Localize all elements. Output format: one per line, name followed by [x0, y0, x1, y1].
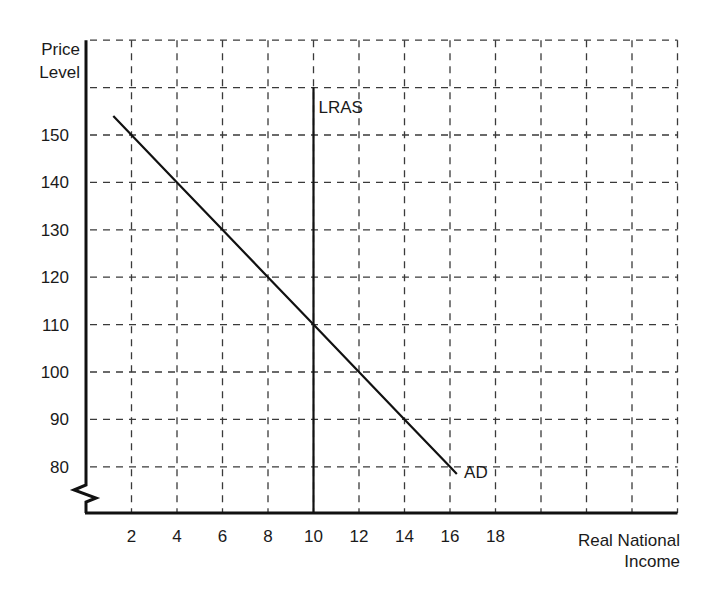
- x-tick-label: 8: [263, 527, 272, 546]
- dashed-grid: [90, 40, 678, 513]
- y-tick-label: 80: [50, 458, 69, 477]
- x-tick-label: 4: [172, 527, 181, 546]
- tick-labels: 809010011012013014015024681012141618: [41, 126, 505, 546]
- y-tick-label: 90: [50, 410, 69, 429]
- x-tick-label: 2: [127, 527, 136, 546]
- x-axis-title-line2: Income: [624, 552, 680, 571]
- y-axis-title-line2: Level: [39, 63, 80, 82]
- x-tick-label: 14: [395, 527, 414, 546]
- y-axis-title-line1: Price: [41, 40, 80, 59]
- series-lines: [113, 88, 457, 513]
- x-tick-label: 10: [304, 527, 323, 546]
- y-tick-label: 130: [41, 221, 69, 240]
- x-axis-title-line1: Real National: [578, 531, 680, 550]
- annotations: LRASAD: [319, 98, 488, 482]
- y-tick-label: 140: [41, 173, 69, 192]
- ad-line: [113, 116, 457, 474]
- x-tick-label: 16: [441, 527, 460, 546]
- y-tick-label: 100: [41, 363, 69, 382]
- x-tick-label: 6: [218, 527, 227, 546]
- price-level-chart: 809010011012013014015024681012141618 LRA…: [0, 0, 707, 589]
- x-tick-label: 12: [350, 527, 369, 546]
- x-tick-label: 18: [486, 527, 505, 546]
- ad-label: AD: [464, 463, 488, 482]
- lras-label: LRAS: [319, 98, 363, 117]
- y-tick-label: 110: [42, 316, 69, 335]
- y-tick-label: 120: [41, 268, 69, 287]
- y-tick-label: 150: [41, 126, 69, 145]
